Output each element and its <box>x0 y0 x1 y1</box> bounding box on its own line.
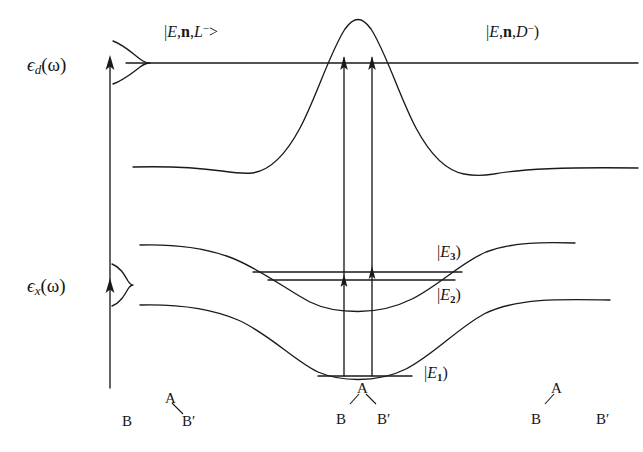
ket-close-left: > <box>209 23 218 40</box>
eps-x-spectral-profile <box>112 264 133 306</box>
rc-left-atom-B: B <box>122 413 132 430</box>
ket-n-left: n <box>181 23 190 40</box>
ket-E3-close: ) <box>455 243 460 260</box>
eps-d-symbol: ϵ <box>27 54 35 75</box>
state-label-upper-left: |E,n,L−> <box>164 22 218 41</box>
ket-close-right: ) <box>534 23 539 40</box>
e2-potential-curve <box>140 243 575 312</box>
ket-D-right: D <box>516 23 528 40</box>
rc-right-atom-B: B <box>531 411 541 428</box>
state-label-e1: |E1) <box>424 364 448 383</box>
ket-E2-close: ) <box>455 286 460 303</box>
ket-E3-E: E <box>440 243 450 260</box>
rc-mid-atom-Bprime: B′ <box>377 411 390 428</box>
figure-canvas: ϵd(ω) ϵx(ω) |E,n,L−> |E,n,D−) |E3) |E2) … <box>0 0 643 452</box>
rc-mid-atom-A: A <box>357 380 368 397</box>
rc-right-atom-A: A <box>551 380 562 397</box>
barrier-potential-curve <box>133 20 638 176</box>
rc-left-atom-A: A <box>165 390 176 407</box>
state-label-upper-right: |E,n,D−) <box>486 22 539 41</box>
eps-d-argument: (ω) <box>41 54 66 75</box>
state-label-e3: |E3) <box>437 243 461 262</box>
arrow-heads <box>340 56 376 287</box>
ket-E1-E: E <box>427 364 437 381</box>
eps-x-symbol: ϵ <box>27 275 35 296</box>
state-label-e2: |E2) <box>437 286 461 305</box>
axis-label-epsilon-d: ϵd(ω) <box>27 54 66 78</box>
e1-potential-curve <box>140 300 610 380</box>
axis-label-epsilon-x: ϵx(ω) <box>27 275 66 299</box>
ket-L-left: L <box>194 23 203 40</box>
ket-E-right: E <box>489 23 499 40</box>
rc-right-atom-Bprime: B′ <box>596 411 609 428</box>
rc-mid-atom-B: B <box>336 411 346 428</box>
ket-E1-close: ) <box>442 364 447 381</box>
ket-E2-E: E <box>440 286 450 303</box>
molecule-bond-ticks <box>172 394 554 414</box>
ket-n-right: n <box>503 23 512 40</box>
eps-x-argument: (ω) <box>40 275 65 296</box>
ket-E-left: E <box>167 23 177 40</box>
diagram-linework <box>0 0 643 452</box>
rc-left-atom-Bprime: B′ <box>182 413 195 430</box>
